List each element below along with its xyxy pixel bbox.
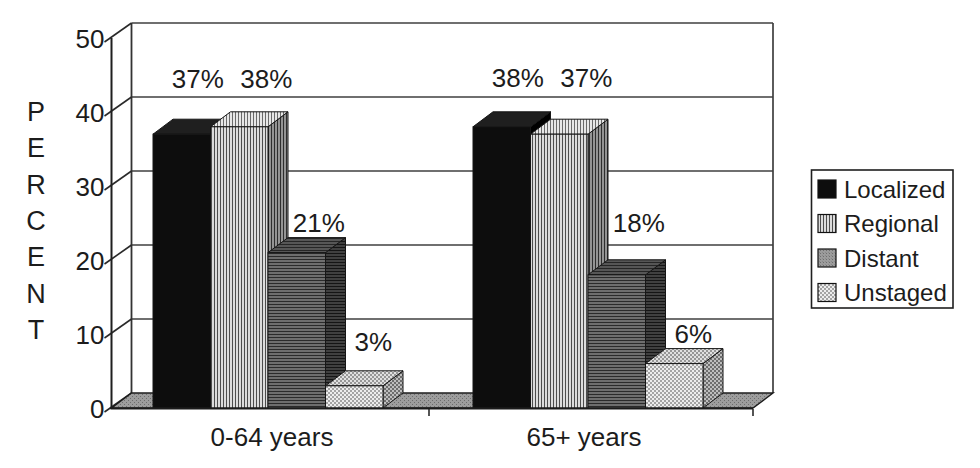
chart-svg: 01020304050PERCENT0-64 years65+ years37%… xyxy=(0,0,980,468)
bar-front-face xyxy=(268,253,326,408)
data-label-localized-1: 38% xyxy=(492,63,544,93)
axis-title-letter-T: T xyxy=(28,315,45,345)
value-axis-title: PERCENT xyxy=(26,97,46,345)
legend-swatch-localized-icon xyxy=(818,180,836,198)
axis-title-letter-C: C xyxy=(26,206,46,236)
legend-swatch-distant-icon xyxy=(818,249,836,267)
legend-swatch-unstaged-icon xyxy=(818,284,836,302)
tick-label-0: 0 xyxy=(90,394,104,424)
legend-label-distant: Distant xyxy=(844,245,919,272)
bar-group-65+-years xyxy=(473,112,723,408)
data-label-distant-0: 21% xyxy=(293,208,345,238)
data-label-regional-0: 38% xyxy=(240,64,292,94)
axis-title-letter-R: R xyxy=(26,170,46,200)
legend: LocalizedRegionalDistantUnstaged xyxy=(812,170,954,308)
tick-mark-30 xyxy=(105,171,132,190)
tick-mark-50 xyxy=(105,23,132,42)
bar-front-face xyxy=(473,127,531,408)
category-axis: 0-64 years65+ years xyxy=(111,409,754,453)
tick-label-50: 50 xyxy=(76,24,105,54)
tick-mark-20 xyxy=(105,245,132,264)
legend-swatch-regional-icon xyxy=(818,215,836,233)
tick-label-30: 30 xyxy=(76,172,105,202)
legend-item-distant: Distant xyxy=(818,245,919,272)
tick-label-40: 40 xyxy=(76,98,105,128)
category-label-0-64-years: 0-64 years xyxy=(211,422,334,452)
tick-label-20: 20 xyxy=(76,246,105,276)
tick-label-10: 10 xyxy=(76,320,105,350)
3d-bar-chart: 01020304050PERCENT0-64 years65+ years37%… xyxy=(0,0,980,468)
legend-item-regional: Regional xyxy=(818,210,939,237)
value-axis: 01020304050 xyxy=(76,23,132,424)
axis-title-letter-E: E xyxy=(27,133,45,163)
axis-title-letter-P: P xyxy=(27,97,45,127)
bar-unstaged-1 xyxy=(646,349,724,408)
bar-front-face xyxy=(153,134,211,408)
tick-mark-40 xyxy=(105,97,132,116)
data-label-unstaged-0: 3% xyxy=(354,327,392,357)
data-label-localized-0: 37% xyxy=(172,64,224,94)
bar-front-face xyxy=(646,364,704,408)
data-label-distant-1: 18% xyxy=(613,208,665,238)
bar-front-face xyxy=(211,127,269,408)
tick-mark-10 xyxy=(105,319,132,338)
data-label-regional-1: 37% xyxy=(560,63,612,93)
bar-group-0-64-years xyxy=(153,112,403,408)
legend-label-localized: Localized xyxy=(844,176,945,203)
bar-front-face xyxy=(326,386,384,408)
axis-title-letter-N: N xyxy=(26,279,46,309)
legend-label-unstaged: Unstaged xyxy=(844,279,947,306)
axis-title-letter-E: E xyxy=(27,242,45,272)
category-label-65+-years: 65+ years xyxy=(527,422,642,452)
bar-front-face xyxy=(531,134,589,408)
legend-label-regional: Regional xyxy=(844,210,939,237)
data-label-unstaged-1: 6% xyxy=(674,319,712,349)
bars xyxy=(153,112,723,408)
bar-front-face xyxy=(588,275,646,408)
